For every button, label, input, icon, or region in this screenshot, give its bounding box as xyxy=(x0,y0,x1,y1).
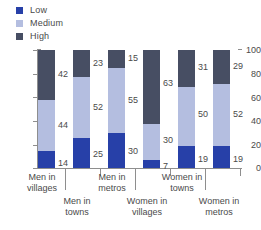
x-category-line2: villages xyxy=(119,207,175,218)
segment-high xyxy=(38,50,55,100)
x-category-line2: towns xyxy=(154,183,210,194)
segment-medium xyxy=(108,68,125,133)
segment-low xyxy=(38,151,55,168)
bar-men-in-metros[interactable] xyxy=(108,50,125,168)
bar-women-in-villages[interactable] xyxy=(143,50,160,168)
chart-legend: Low Medium High xyxy=(16,5,63,44)
value-label-high-women-metros: 29 xyxy=(233,62,243,71)
segment-medium xyxy=(213,84,230,145)
value-label-low-women-metros: 19 xyxy=(233,155,243,164)
bar-men-in-towns[interactable] xyxy=(73,50,90,168)
legend-swatch-low-icon xyxy=(16,7,23,14)
legend-label-medium: Medium xyxy=(30,19,63,28)
bar-women-in-metros[interactable] xyxy=(213,50,230,168)
x-category-line1: Women in xyxy=(189,196,249,207)
value-label-medium-men-towns: 52 xyxy=(93,103,103,112)
value-label-high-women-towns: 31 xyxy=(198,63,208,72)
value-label-medium-women-villages: 30 xyxy=(163,136,173,145)
segment-medium xyxy=(143,124,160,159)
x-category-men-in-metros: Men in metros xyxy=(84,172,140,194)
x-category-line1: Women in xyxy=(154,172,210,183)
legend-swatch-high-icon xyxy=(16,33,23,40)
segment-medium xyxy=(38,100,55,152)
y-tick-mark-0 xyxy=(33,168,38,169)
legend-item-low: Low xyxy=(16,5,63,16)
value-label-low-men-metros: 30 xyxy=(128,147,138,156)
legend-swatch-medium-icon xyxy=(16,20,23,27)
bar-men-in-villages[interactable] xyxy=(38,50,55,168)
value-label-low-women-towns: 19 xyxy=(198,155,208,164)
value-label-high-women-villages: 63 xyxy=(163,79,173,88)
segment-high xyxy=(143,50,160,124)
segment-low xyxy=(73,138,90,168)
x-category-line1: Men in xyxy=(14,172,70,183)
x-category-line1: Men in xyxy=(49,196,105,207)
x-category-men-in-villages: Men in villages xyxy=(14,172,70,194)
legend-label-low: Low xyxy=(30,6,47,15)
segment-low xyxy=(108,133,125,168)
value-label-high-men-villages: 42 xyxy=(58,70,68,79)
value-label-high-men-metros: 15 xyxy=(128,54,138,63)
value-label-low-women-villages: 7 xyxy=(163,162,168,171)
value-label-high-men-towns: 23 xyxy=(93,59,103,68)
legend-item-medium: Medium xyxy=(16,18,63,29)
value-label-low-men-villages: 14 xyxy=(58,159,68,168)
x-category-women-in-metros: Women in metros xyxy=(189,196,249,218)
value-label-medium-women-towns: 50 xyxy=(198,110,208,119)
x-category-line2: towns xyxy=(49,207,105,218)
x-category-women-in-towns: Women in towns xyxy=(154,172,210,194)
segment-low xyxy=(143,160,160,168)
segment-high xyxy=(178,50,195,87)
x-category-line2: villages xyxy=(14,183,70,194)
segment-high xyxy=(73,50,90,77)
segment-low xyxy=(213,146,230,168)
x-category-line2: metros xyxy=(189,207,249,218)
x-category-line1: Men in xyxy=(84,172,140,183)
segment-low xyxy=(178,146,195,168)
segment-medium xyxy=(73,77,90,138)
x-category-line2: metros xyxy=(84,183,140,194)
x-category-line1: Women in xyxy=(119,196,175,207)
legend-item-high: High xyxy=(16,31,63,42)
x-category-men-in-towns: Men in towns xyxy=(49,196,105,218)
legend-label-high: High xyxy=(30,32,49,41)
bar-women-in-towns[interactable] xyxy=(178,50,195,168)
value-label-medium-men-metros: 55 xyxy=(128,96,138,105)
plot-area xyxy=(38,50,241,168)
x-separator-6 xyxy=(240,168,241,176)
segment-medium xyxy=(178,87,195,146)
x-category-women-in-villages: Women in villages xyxy=(119,196,175,218)
value-label-low-men-towns: 25 xyxy=(93,150,103,159)
stacked-bar-chart: Low Medium High 100 80 60 40 20 0 xyxy=(0,0,261,230)
value-label-medium-women-metros: 52 xyxy=(233,110,243,119)
segment-high xyxy=(108,50,125,68)
value-label-medium-men-villages: 44 xyxy=(58,121,68,130)
x-axis-line xyxy=(37,168,242,169)
segment-high xyxy=(213,50,230,84)
